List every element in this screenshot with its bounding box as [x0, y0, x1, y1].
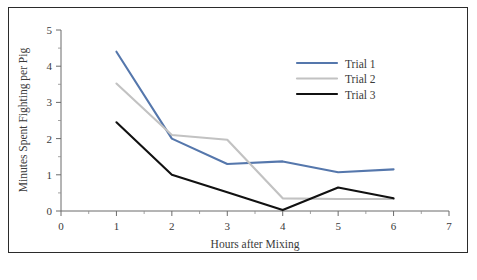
y-tick-label: 1: [47, 169, 53, 181]
series-line-trial-1: [116, 52, 393, 173]
y-tick-label: 0: [47, 205, 53, 217]
legend-label-trial-3: Trial 3: [345, 89, 376, 101]
y-axis-ticks: [56, 30, 61, 211]
y-axis-tick-labels: 012345: [47, 24, 53, 217]
figure-border-frame: 012345 01234567 Trial 1Trial 2Trial 3 Ho…: [8, 7, 468, 253]
figure-root: 012345 01234567 Trial 1Trial 2Trial 3 Ho…: [0, 0, 477, 280]
x-tick-label: 7: [446, 220, 452, 232]
y-tick-label: 3: [47, 96, 53, 108]
x-tick-label: 2: [169, 220, 175, 232]
x-tick-label: 0: [58, 220, 64, 232]
x-tick-label: 1: [114, 220, 120, 232]
x-tick-label: 5: [335, 220, 341, 232]
legend-label-trial-1: Trial 1: [345, 58, 376, 70]
x-axis-tick-labels: 01234567: [58, 220, 452, 232]
y-axis-title: Minutes Spent Fighting per Pig: [17, 48, 30, 193]
chart-legend: Trial 1Trial 2Trial 3: [297, 58, 376, 101]
x-axis-ticks: [61, 211, 449, 216]
y-tick-label: 5: [47, 24, 53, 36]
y-tick-label: 4: [47, 60, 53, 72]
series-line-trial-2: [116, 84, 393, 199]
x-tick-label: 6: [391, 220, 397, 232]
x-tick-label: 3: [225, 220, 231, 232]
x-tick-label: 4: [280, 220, 286, 232]
y-tick-label: 2: [47, 133, 53, 145]
x-axis-title: Hours after Mixing: [211, 238, 300, 251]
line-chart: 012345 01234567 Trial 1Trial 2Trial 3 Ho…: [9, 8, 467, 252]
legend-label-trial-2: Trial 2: [345, 73, 376, 85]
series-line-trial-3: [116, 122, 393, 210]
